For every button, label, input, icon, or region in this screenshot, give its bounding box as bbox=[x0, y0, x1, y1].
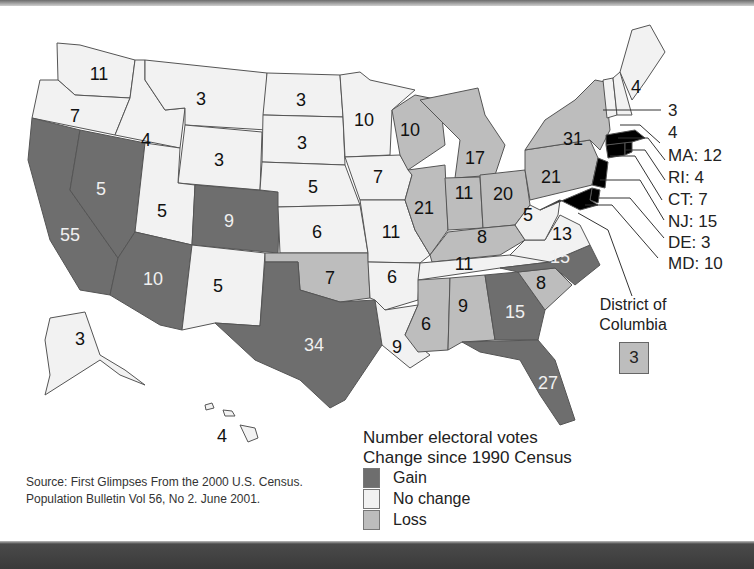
label-MO: 11 bbox=[382, 222, 401, 242]
legend-item-gain: Gain bbox=[363, 467, 470, 488]
callout-MD: MD: 10 bbox=[668, 254, 723, 273]
label-CO: 9 bbox=[224, 211, 234, 231]
label-AL: 9 bbox=[458, 296, 468, 316]
label-WI: 10 bbox=[400, 120, 420, 140]
callout-MA: MA: 12 bbox=[668, 146, 722, 165]
state-RI[interactable] bbox=[625, 142, 632, 155]
label-NV: 5 bbox=[96, 179, 106, 199]
label-NE: 5 bbox=[308, 177, 318, 197]
label-OH: 20 bbox=[493, 184, 513, 204]
label-MI: 17 bbox=[465, 148, 485, 168]
legend-item-no-change: No change bbox=[363, 488, 470, 509]
label-TX: 34 bbox=[304, 335, 324, 355]
label-AK: 3 bbox=[75, 329, 85, 349]
label-UT: 5 bbox=[157, 201, 167, 221]
legend-item-loss: Loss bbox=[363, 509, 470, 530]
state-HI[interactable] bbox=[240, 425, 258, 442]
label-VA: 13 bbox=[552, 224, 572, 244]
state-FL[interactable] bbox=[462, 340, 575, 425]
dc-label-line1: District of bbox=[593, 295, 673, 315]
label-IL: 21 bbox=[414, 198, 434, 218]
label-NY: 31 bbox=[563, 129, 583, 149]
label-MN: 10 bbox=[354, 110, 374, 130]
callout-labels: 3 4 MA: 12 RI: 4 CT: 7 NJ: 15 DE: 3 MD: … bbox=[668, 101, 723, 273]
state-HI-islands[interactable] bbox=[205, 403, 214, 410]
legend-swatch-loss bbox=[363, 510, 380, 530]
label-AR: 6 bbox=[387, 267, 397, 287]
label-WV: 5 bbox=[523, 205, 533, 225]
label-KY: 8 bbox=[477, 227, 487, 247]
state-KS[interactable] bbox=[278, 205, 368, 253]
source-note: Source: First Glimpses From the 2000 U.S… bbox=[26, 474, 346, 508]
label-HI: 4 bbox=[217, 426, 227, 446]
label-OK: 7 bbox=[325, 268, 335, 288]
callout-NH: 4 bbox=[668, 123, 677, 142]
dc-label: District of Columbia bbox=[593, 295, 673, 335]
label-WY: 3 bbox=[214, 150, 224, 170]
label-OR: 7 bbox=[70, 106, 80, 126]
callout-CT: CT: 7 bbox=[668, 190, 708, 209]
label-TN: 11 bbox=[455, 254, 474, 274]
label-ME: 4 bbox=[631, 77, 641, 97]
label-ID: 4 bbox=[141, 130, 151, 150]
label-SC: 8 bbox=[536, 273, 546, 293]
callout-RI: RI: 4 bbox=[668, 168, 704, 187]
dc-votes-box: 3 bbox=[619, 342, 649, 374]
label-WA: 11 bbox=[90, 64, 109, 84]
label-NM: 5 bbox=[213, 276, 223, 296]
label-NC: 15 bbox=[550, 247, 570, 267]
legend-swatch-no-change bbox=[363, 489, 380, 509]
legend-label: Loss bbox=[393, 511, 427, 529]
legend: Gain No change Loss bbox=[363, 467, 470, 530]
label-FL: 27 bbox=[538, 373, 558, 393]
state-NM[interactable] bbox=[182, 245, 265, 330]
label-PA: 21 bbox=[541, 167, 561, 187]
legend-swatch-gain bbox=[363, 468, 380, 488]
label-MS: 6 bbox=[421, 314, 431, 334]
dc-label-line2: Columbia bbox=[593, 315, 673, 335]
state-ME[interactable] bbox=[620, 25, 665, 100]
label-ND: 3 bbox=[296, 90, 306, 110]
callout-NJ: NJ: 15 bbox=[668, 212, 717, 231]
label-AZ: 10 bbox=[143, 269, 163, 289]
label-GA: 15 bbox=[505, 302, 525, 322]
label-IA: 7 bbox=[373, 167, 383, 187]
callout-VT: 3 bbox=[668, 101, 677, 120]
label-LA: 9 bbox=[392, 337, 402, 357]
callout-DE: DE: 3 bbox=[668, 233, 711, 252]
label-MT: 3 bbox=[196, 89, 206, 109]
legend-title: Number electoral votes Change since 1990… bbox=[363, 428, 572, 468]
bottom-border-bar bbox=[0, 541, 754, 569]
legend-label: No change bbox=[393, 490, 470, 508]
label-SD: 3 bbox=[297, 133, 307, 153]
label-CA: 55 bbox=[60, 225, 80, 245]
state-HI-islands2[interactable] bbox=[223, 410, 235, 416]
legend-label: Gain bbox=[393, 469, 427, 487]
label-IN: 11 bbox=[455, 183, 474, 203]
legend-title-line1: Number electoral votes bbox=[363, 428, 572, 448]
state-AK[interactable] bbox=[45, 312, 145, 395]
label-KS: 6 bbox=[312, 222, 322, 242]
legend-title-line2: Change since 1990 Census bbox=[363, 448, 572, 468]
state-CO[interactable] bbox=[192, 185, 280, 253]
